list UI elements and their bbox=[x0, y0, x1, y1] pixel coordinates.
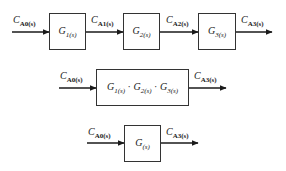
signal-ca0-row1: CA0(s) bbox=[13, 14, 36, 28]
signal-ca0-row3: CA0(s) bbox=[88, 126, 111, 140]
signal-ca3-row2: CA3(s) bbox=[194, 70, 217, 84]
signal-ca2: CA2(s) bbox=[166, 14, 189, 28]
block-g2: G2(s) bbox=[123, 13, 160, 50]
block-g1-g2-g3-product: G1(s) · G2(s) · G3(s) bbox=[96, 69, 189, 106]
signal-ca0-row2: CA0(s) bbox=[60, 70, 83, 84]
signal-ca1: CA1(s) bbox=[91, 14, 114, 28]
block-g-overall: G(s) bbox=[124, 125, 161, 162]
block-g3: G3(s) bbox=[198, 13, 236, 50]
signal-ca3-row1: CA3(s) bbox=[241, 14, 264, 28]
block-g1: G1(s) bbox=[49, 13, 86, 50]
signal-ca3-row3: CA3(s) bbox=[166, 126, 189, 140]
